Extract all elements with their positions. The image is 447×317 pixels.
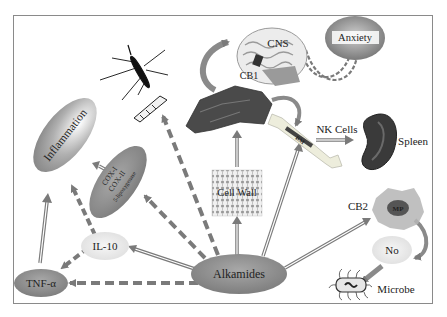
mp-label: MP (393, 205, 405, 213)
edge-cellwall-tissue (232, 130, 242, 167)
tissue-icon (186, 86, 272, 133)
node-spleen: Spleen (362, 114, 429, 170)
alkamides-label: Alkamides (213, 267, 265, 281)
edge-mp-no (415, 220, 426, 258)
edge-alkamides-cellwall (232, 216, 242, 255)
node-cns-brain: CNS CB1 (237, 28, 307, 86)
mosquito-icon (100, 45, 168, 100)
edge-alkamides-bm (263, 142, 303, 256)
cns-label: CNS (267, 37, 288, 49)
node-cox-lipoxygenase: COX-I COX-II 5-lipoxygenase (78, 137, 157, 228)
spleen-label: Spleen (398, 135, 428, 147)
tnf-label: TNF-α (26, 277, 56, 289)
no-label: No (385, 244, 399, 256)
node-anxiety: Anxiety (325, 16, 385, 60)
node-il10: IL-10 (81, 232, 129, 260)
node-cell-wall: Cell Wall (212, 170, 262, 216)
edge-alkamides-cb2 (285, 218, 371, 268)
edge-alkamides-cox (145, 196, 205, 258)
edge-bm-spleen (316, 135, 354, 145)
nk-cells-label: NK Cells (316, 123, 357, 135)
microbe-label: Microbe (377, 283, 414, 295)
node-inflammation: Inflammation (21, 87, 108, 182)
edge-alkamides-larva (163, 116, 218, 255)
node-alkamides: Alkamides (191, 254, 287, 294)
anxiety-label: Anxiety (338, 32, 373, 43)
edge-tnf-inflammation (40, 193, 52, 263)
cb1-label: CB1 (240, 70, 258, 81)
il10-label: IL-10 (92, 240, 118, 252)
edge-no-microbe (362, 266, 382, 282)
alkamides-diagram: Inflammation COX-I COX-II 5-lipoxygenase… (0, 0, 447, 317)
node-tnf-alpha: TNF-α (14, 269, 68, 297)
cell-wall-label: Cell Wall (217, 187, 257, 198)
edge-alkamides-il10 (128, 245, 198, 270)
cb2-label: CB2 (348, 200, 368, 212)
edge-tissue-cns (203, 42, 228, 90)
node-no: No (372, 236, 412, 264)
